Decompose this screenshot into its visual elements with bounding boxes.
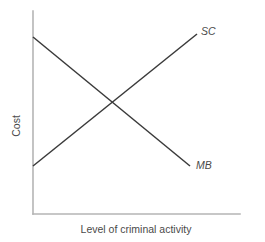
series-line-sc — [33, 34, 197, 166]
y-axis-label: Cost — [10, 115, 22, 137]
x-axis-label: Level of criminal activity — [81, 223, 193, 235]
series-label-sc: SC — [201, 25, 216, 37]
chart-container: SC MB Level of criminal activity Cost — [0, 0, 265, 242]
series-label-mb: MB — [196, 159, 212, 171]
chart-svg: SC MB Level of criminal activity Cost — [0, 0, 265, 242]
